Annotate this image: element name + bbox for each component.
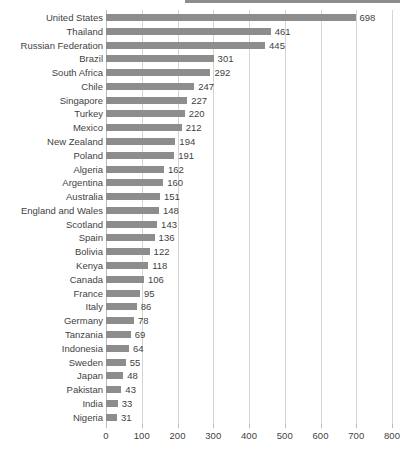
bar [106, 207, 159, 214]
value-label: 191 [178, 148, 194, 163]
bar [106, 303, 137, 310]
bar-row: Sweden55 [0, 355, 404, 370]
value-label: 122 [154, 244, 170, 259]
bar-row: Australia151 [0, 189, 404, 204]
category-label: Poland [0, 148, 103, 163]
x-tick-mark-100 [142, 424, 143, 428]
x-tick-label-700: 700 [336, 430, 376, 441]
bar-container [106, 65, 210, 80]
value-label: 212 [186, 120, 202, 135]
bar-row: Scotland143 [0, 217, 404, 232]
bar-row: Italy86 [0, 299, 404, 314]
value-label: 43 [125, 382, 136, 397]
bar-row: Thailand461 [0, 24, 404, 39]
bar [106, 290, 140, 297]
bar-row: France95 [0, 286, 404, 301]
bar-container [106, 355, 126, 370]
value-label: 78 [138, 313, 149, 328]
value-label: 33 [122, 396, 133, 411]
bar-row: Canada106 [0, 272, 404, 287]
bar-container [106, 258, 148, 273]
bar-container [106, 189, 160, 204]
category-label: France [0, 286, 103, 301]
bar-row: Japan48 [0, 368, 404, 383]
x-tick-mark-0 [106, 424, 107, 428]
bar [106, 234, 155, 241]
value-label: 143 [161, 217, 177, 232]
value-label: 106 [148, 272, 164, 287]
bar-row: Pakistan43 [0, 382, 404, 397]
value-label: 445 [269, 38, 285, 53]
bar [106, 124, 182, 131]
bar [106, 152, 174, 159]
value-label: 31 [121, 410, 132, 425]
bar-row: India33 [0, 396, 404, 411]
category-label: Scotland [0, 217, 103, 232]
value-label: 148 [163, 203, 179, 218]
category-label: Australia [0, 189, 103, 204]
value-label: 95 [144, 286, 155, 301]
bar [106, 97, 187, 104]
horizontal-bar-chart: United States698Thailand461Russian Feder… [0, 0, 404, 458]
value-label: 247 [198, 79, 214, 94]
bar [106, 400, 118, 407]
category-label: Japan [0, 368, 103, 383]
bar [106, 42, 265, 49]
bar [106, 359, 126, 366]
x-tick-mark-200 [178, 424, 179, 428]
bar-container [106, 341, 129, 356]
bar-row: New Zealand194 [0, 134, 404, 149]
bar [106, 262, 148, 269]
value-label: 160 [167, 175, 183, 190]
bar-container [106, 217, 157, 232]
value-label: 118 [152, 258, 167, 273]
category-label: Algeria [0, 162, 103, 177]
category-label: Pakistan [0, 382, 103, 397]
x-tick-label-500: 500 [265, 430, 305, 441]
bar-container [106, 368, 123, 383]
x-tick-mark-700 [356, 424, 357, 428]
bar [106, 166, 164, 173]
value-label: 55 [130, 355, 141, 370]
bar [106, 317, 134, 324]
x-tick-label-100: 100 [122, 430, 162, 441]
bar-container [106, 203, 159, 218]
bar-container [106, 313, 134, 328]
bar-row: Turkey220 [0, 106, 404, 121]
category-label: Bolivia [0, 244, 103, 259]
value-label: 69 [135, 327, 146, 342]
bar [106, 331, 131, 338]
category-label: New Zealand [0, 134, 103, 149]
x-tick-label-300: 300 [193, 430, 233, 441]
bar-container [106, 230, 155, 245]
x-tick-mark-400 [249, 424, 250, 428]
value-label: 86 [141, 299, 152, 314]
bar-container [106, 162, 164, 177]
category-label: Russian Federation [0, 38, 103, 53]
value-label: 151 [164, 189, 180, 204]
bar [106, 138, 175, 145]
category-label: Kenya [0, 258, 103, 273]
value-label: 461 [275, 24, 291, 39]
category-label: Argentina [0, 175, 103, 190]
category-label: South Africa [0, 65, 103, 80]
bar-row: Nigeria31 [0, 410, 404, 425]
bar-row: Mexico212 [0, 120, 404, 135]
value-label: 292 [214, 65, 230, 80]
value-label: 64 [133, 341, 144, 356]
bar-row: Chile247 [0, 79, 404, 94]
value-label: 220 [189, 106, 205, 121]
bar-row: Bolivia122 [0, 244, 404, 259]
bar-row: South Africa292 [0, 65, 404, 80]
bar-row: Spain136 [0, 230, 404, 245]
bar-container [106, 244, 150, 259]
bar-row: Russian Federation445 [0, 38, 404, 53]
category-label: Chile [0, 79, 103, 94]
x-tick-mark-800 [392, 424, 393, 428]
bar [106, 372, 123, 379]
bar-row: Germany78 [0, 313, 404, 328]
bar [106, 386, 121, 393]
value-label: 698 [360, 10, 376, 25]
bar-container [106, 148, 174, 163]
x-tick-mark-600 [321, 424, 322, 428]
